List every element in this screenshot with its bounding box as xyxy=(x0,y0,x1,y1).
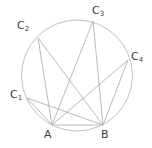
point-label-c4: C4 xyxy=(131,51,143,64)
chord-b-c1 xyxy=(27,98,103,125)
point-label-c1-subscript: 1 xyxy=(18,94,22,102)
point-label-a: A xyxy=(44,129,52,142)
circle-outline xyxy=(22,20,133,131)
point-label-c3: C3 xyxy=(92,5,104,18)
point-label-b: B xyxy=(101,129,109,142)
chord-b-c3 xyxy=(93,21,103,125)
chord-group xyxy=(27,21,128,125)
point-label-c2-subscript: 2 xyxy=(25,25,29,33)
point-label-c1-text: C xyxy=(10,88,18,101)
point-label-b-text: B xyxy=(101,128,109,141)
point-label-c4-subscript: 4 xyxy=(139,56,143,64)
point-label-a-text: A xyxy=(44,128,52,141)
point-label-c2-text: C xyxy=(17,19,25,32)
point-label-c1: C1 xyxy=(10,89,22,102)
figure-canvas: A B C1 C2 C3 C4 xyxy=(0,0,152,148)
chord-b-c2 xyxy=(38,38,103,125)
point-label-c4-text: C xyxy=(131,50,139,63)
point-label-c2: C2 xyxy=(17,20,29,33)
chord-a-c4 xyxy=(52,60,128,125)
point-label-c3-text: C xyxy=(92,4,100,17)
point-label-c3-subscript: 3 xyxy=(100,10,104,18)
